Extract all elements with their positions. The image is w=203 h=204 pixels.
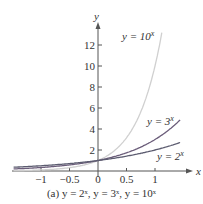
annotation-3x: y = 3x (146, 114, 174, 127)
y-tick-label: 2 (90, 144, 96, 156)
x-tick-label: 0 (95, 173, 101, 185)
y-tick-label: 10 (84, 60, 96, 72)
caption: (a) y = 2ˣ, y = 3ˣ, y = 10ˣ (0, 187, 203, 199)
chart: xy−1−0.500.5124681012y = 10xy = 3xy = 2x (0, 0, 203, 204)
curve-2 (14, 143, 181, 168)
x-tick-label: 0.5 (120, 173, 134, 185)
x-arrow-icon (186, 169, 193, 174)
curve-10 (14, 33, 162, 171)
y-tick-label: 6 (90, 102, 96, 114)
y-tick-label: 8 (90, 81, 96, 93)
y-axis-label: y (93, 10, 99, 22)
x-axis-label: x (195, 165, 201, 177)
y-tick-label: 4 (90, 123, 96, 135)
x-tick-label: −1 (35, 173, 47, 185)
annotation-10x: y = 10x (121, 29, 155, 42)
x-tick-label: 1 (152, 173, 158, 185)
x-tick-label: −0.5 (60, 173, 80, 185)
y-tick-label: 12 (84, 39, 95, 51)
y-arrow-icon (96, 22, 101, 29)
annotation-2x: y = 2x (156, 149, 184, 162)
